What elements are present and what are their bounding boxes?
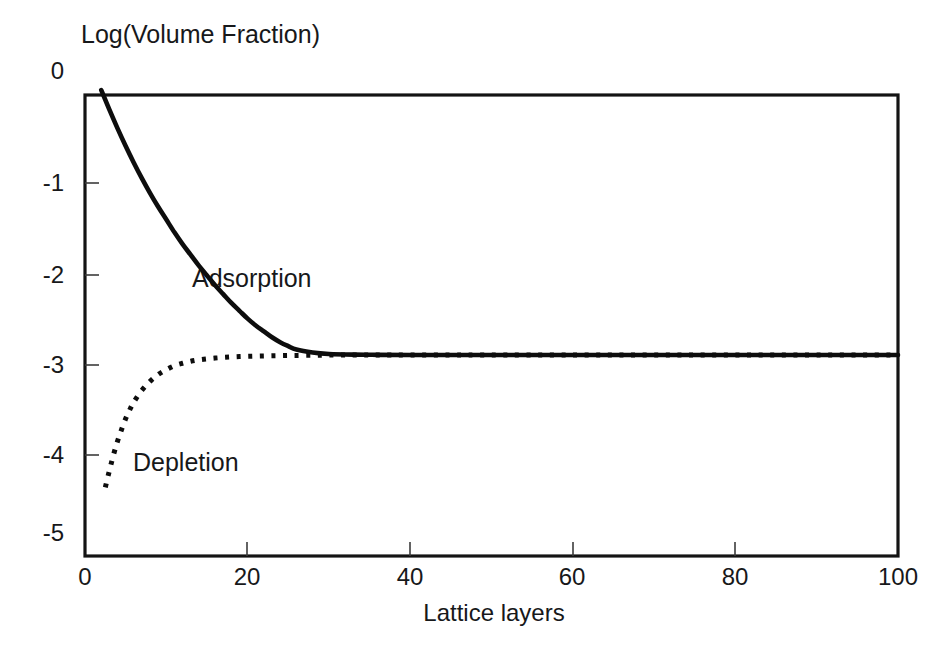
- series-line-depletion: [105, 355, 898, 487]
- x-tick-marks: [247, 542, 735, 556]
- figure-container: Log(Volume Fraction) Lattice layers 0 -1…: [0, 0, 934, 649]
- series-line-adsorption: [101, 90, 898, 355]
- axes-frame: [85, 95, 898, 556]
- plot-area: [0, 0, 934, 649]
- y-tick-marks: [85, 183, 99, 455]
